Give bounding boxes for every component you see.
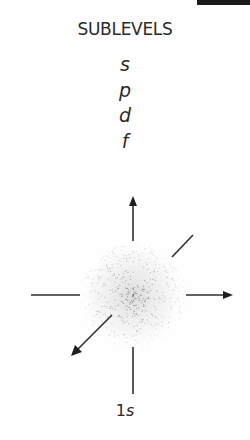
orbital-label-number: 1 (116, 401, 126, 420)
arrowhead-right-icon (223, 291, 233, 299)
orbital-diagram (0, 0, 250, 440)
y-axis-back (172, 235, 193, 257)
arrowhead-up-icon (129, 196, 137, 206)
page: SUBLEVELS s p d f (0, 0, 250, 440)
orbital-label: 1s (0, 401, 250, 420)
orbital-label-letter: s (126, 401, 134, 420)
